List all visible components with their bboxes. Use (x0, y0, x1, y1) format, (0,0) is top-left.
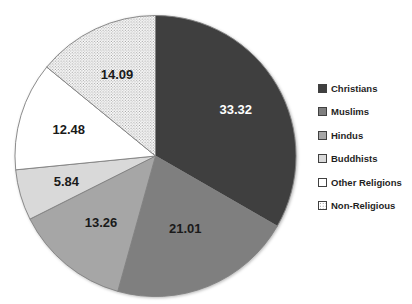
chart-canvas: { "chart_data": { "type": "pie", "title"… (0, 0, 412, 304)
legend-label-muslims: Muslims (331, 106, 369, 117)
legend: Christians Muslims Hindus Buddhists Othe… (318, 83, 402, 224)
legend-item-other-religions: Other Religions (318, 177, 402, 187)
data-label-buddhists: 5.84 (54, 174, 80, 189)
data-label-christians: 33.32 (220, 102, 253, 117)
data-label-hindus: 13.26 (85, 215, 118, 230)
legend-swatch-christians (318, 84, 327, 93)
legend-label-hindus: Hindus (331, 130, 363, 141)
legend-item-christians: Christians (318, 83, 402, 93)
legend-label-christians: Christians (331, 83, 377, 94)
legend-item-buddhists: Buddhists (318, 154, 402, 164)
legend-item-muslims: Muslims (318, 107, 402, 117)
legend-label-non-religious: Non-Religious (331, 200, 395, 211)
legend-swatch-non-religious (318, 201, 327, 210)
legend-item-non-religious: Non-Religious (318, 201, 402, 211)
data-label-muslims: 21.01 (169, 221, 202, 236)
legend-swatch-hindus (318, 131, 327, 140)
data-label-non-religious: 14.09 (101, 67, 134, 82)
legend-swatch-muslims (318, 107, 327, 116)
legend-swatch-other-religions (318, 178, 327, 187)
legend-swatch-buddhists (318, 154, 327, 163)
legend-label-buddhists: Buddhists (331, 153, 377, 164)
legend-item-hindus: Hindus (318, 130, 402, 140)
pie-slices (15, 16, 296, 297)
legend-label-other-religions: Other Religions (331, 177, 402, 188)
data-label-other-religions: 12.48 (53, 122, 86, 137)
